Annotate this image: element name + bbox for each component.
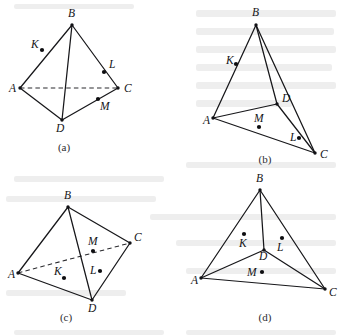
vertex-label-B: B: [64, 189, 71, 201]
edge-BD: [260, 190, 264, 250]
vertex-label-C: C: [320, 148, 328, 160]
vertex-dot-D: [275, 102, 278, 105]
point-label-M: M: [87, 235, 99, 247]
edge-AB: [20, 25, 72, 88]
point-label-K: K: [238, 237, 248, 249]
vertex-dot-A: [16, 271, 19, 274]
vertex-dot-C: [128, 241, 131, 244]
point-dot-L: [98, 269, 102, 273]
geometry-figure-sheet: ABCDKLM(a)ABCDKLM(b)ABCDKLM(c)ABCDKLM(d): [0, 0, 344, 335]
vertex-dot-A: [199, 276, 202, 279]
vertex-dot-B: [258, 188, 261, 191]
vertex-label-D: D: [281, 92, 291, 104]
point-dot-M: [257, 125, 261, 129]
edge-AD: [213, 104, 277, 118]
edge-BD: [62, 25, 72, 120]
edge-BC: [72, 25, 118, 88]
figure-d: ABCDKLM(d): [190, 172, 337, 324]
point-dot-K: [62, 276, 66, 280]
point-dot-K: [40, 48, 44, 52]
edge-CD: [92, 243, 130, 300]
edge-CD: [62, 88, 118, 120]
point-label-K: K: [53, 265, 63, 277]
edge-AD: [18, 273, 92, 300]
vertex-dot-A: [211, 116, 214, 119]
point-dot-L: [280, 236, 284, 240]
caption-figure-b: (b): [259, 153, 272, 166]
point-dot-K: [234, 62, 238, 66]
vertex-label-B: B: [252, 6, 259, 18]
edge-BC: [260, 190, 325, 289]
vertex-dot-A: [18, 86, 21, 89]
point-label-M: M: [99, 100, 111, 112]
geometry-canvas: ABCDKLM(a)ABCDKLM(b)ABCDKLM(c)ABCDKLM(d): [0, 0, 344, 335]
vertex-dot-C: [313, 151, 316, 154]
vertex-label-B: B: [68, 7, 75, 19]
point-dot-M: [91, 249, 95, 253]
point-dot-L: [297, 136, 301, 140]
vertex-dot-B: [254, 23, 257, 26]
point-label-K: K: [225, 54, 235, 66]
vertex-label-A: A: [7, 268, 16, 280]
vertex-label-C: C: [124, 82, 132, 94]
point-label-M: M: [253, 112, 265, 124]
point-dot-L: [102, 70, 106, 74]
figure-b: ABCDKLM(b): [202, 6, 328, 166]
point-label-L: L: [289, 131, 296, 143]
point-dot-K: [242, 232, 246, 236]
edge-AB: [213, 25, 256, 118]
point-label-K: K: [30, 38, 40, 50]
caption-figure-c: (c): [60, 311, 73, 324]
vertex-label-B: B: [256, 172, 263, 184]
vertex-label-A: A: [8, 82, 17, 94]
caption-figure-a: (a): [58, 141, 71, 154]
edge-AD: [20, 88, 62, 120]
point-dot-M: [260, 270, 264, 274]
vertex-label-A: A: [202, 114, 211, 126]
edge-AB: [18, 207, 68, 273]
edge-BD: [68, 207, 92, 300]
edge-AC: [201, 278, 325, 289]
point-label-L: L: [89, 264, 96, 276]
vertex-dot-B: [70, 23, 73, 26]
vertex-dot-C: [323, 287, 326, 290]
vertex-label-C: C: [329, 286, 337, 298]
point-label-L: L: [108, 58, 115, 70]
vertex-label-D: D: [87, 302, 97, 314]
figure-c: ABCDKLM(c): [7, 189, 142, 324]
vertex-label-A: A: [190, 274, 199, 286]
point-label-M: M: [246, 266, 258, 278]
vertex-label-D: D: [55, 122, 65, 134]
vertex-dot-B: [66, 205, 69, 208]
edge-BC: [256, 25, 315, 153]
edge-DC: [264, 250, 325, 289]
figure-a: ABCDKLM(a): [8, 7, 132, 154]
caption-figure-d: (d): [259, 311, 272, 324]
edge-BC: [68, 207, 130, 243]
point-label-L: L: [276, 241, 283, 253]
vertex-label-D: D: [258, 250, 268, 262]
vertex-dot-C: [116, 86, 119, 89]
edge-AC: [213, 118, 315, 153]
vertex-label-C: C: [134, 231, 142, 243]
